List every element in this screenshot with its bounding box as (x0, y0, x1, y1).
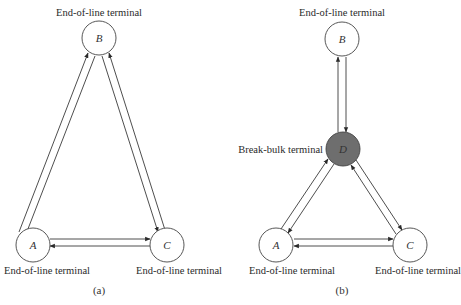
edge-b-D-to-A (288, 164, 334, 233)
node-label: B (339, 33, 346, 45)
edge-b-A-to-D (281, 159, 328, 229)
node-label: C (163, 239, 171, 251)
caption-a: (a) (93, 284, 106, 297)
node-role-label: End-of-line terminal (299, 7, 385, 18)
edge-a-B-to-A (26, 56, 95, 234)
node-label: B (96, 32, 103, 44)
node-label: A (29, 239, 37, 251)
edge-a-B-to-C (102, 56, 158, 232)
node-a-C: C End-of-line terminal (136, 228, 222, 276)
node-label: C (406, 239, 414, 251)
node-label: A (272, 239, 280, 251)
node-a-A: A End-of-line terminal (4, 228, 90, 276)
terminal-network-diagram: B End-of-line terminal A End-of-line ter… (0, 0, 461, 305)
edge-a-C-to-B (109, 53, 165, 230)
node-role-label: End-of-line terminal (4, 265, 90, 276)
diagram-b: B End-of-line terminal D Break-bulk term… (238, 7, 461, 297)
edge-b-C-to-D (351, 165, 396, 234)
diagram-a: B End-of-line terminal A End-of-line ter… (4, 7, 222, 297)
node-b-D: D Break-bulk terminal (238, 132, 360, 166)
node-b-B: B End-of-line terminal (299, 7, 385, 56)
node-b-A: A End-of-line terminal (249, 228, 335, 276)
node-role-label: End-of-line terminal (136, 265, 222, 276)
node-b-C: C End-of-line terminal (375, 228, 461, 276)
node-role-label: Break-bulk terminal (238, 144, 323, 155)
node-label: D (338, 143, 347, 155)
node-role-label: End-of-line terminal (375, 265, 461, 276)
node-a-B: B End-of-line terminal (56, 7, 142, 55)
edge-b-D-to-C (356, 160, 402, 230)
caption-b: (b) (336, 284, 349, 297)
edge-a-A-to-B (19, 53, 88, 232)
node-role-label: End-of-line terminal (56, 7, 142, 18)
node-role-label: End-of-line terminal (249, 265, 335, 276)
